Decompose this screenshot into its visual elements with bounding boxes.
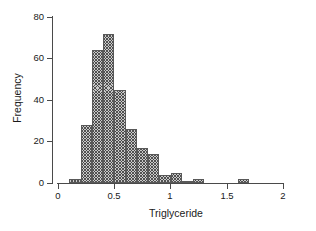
y-tick-label-80: 80 (18, 12, 44, 22)
histogram-bar (114, 90, 125, 183)
x-tick-label-1.5: 1.5 (212, 191, 242, 201)
histogram-bar (148, 154, 159, 183)
x-tick-label-1: 1 (155, 191, 185, 201)
y-tick-40 (47, 100, 52, 101)
histogram-bar (159, 175, 170, 183)
histogram-bar (171, 173, 182, 183)
x-tick-0.5 (114, 184, 115, 189)
histogram-bar (126, 129, 137, 183)
x-tick-label-0.5: 0.5 (99, 191, 129, 201)
histogram-bar (92, 50, 103, 183)
histogram-bar (137, 148, 148, 183)
histogram-chart: 80 60 40 20 0 0 0.5 1 1.5 2 Triglyceride… (0, 0, 316, 231)
y-axis-line (52, 16, 53, 184)
histogram-bar (182, 181, 193, 183)
y-tick-80 (47, 17, 52, 18)
histogram-bar (238, 179, 249, 183)
y-tick-0 (47, 183, 52, 184)
x-axis-title: Triglyceride (116, 207, 236, 219)
x-tick-label-0: 0 (43, 191, 73, 201)
y-tick-20 (47, 141, 52, 142)
histogram-bar (81, 125, 92, 183)
x-tick-label-2: 2 (268, 191, 298, 201)
histogram-bar (69, 179, 80, 183)
x-tick-2 (283, 184, 284, 189)
y-axis-title: Frequency (11, 53, 23, 143)
x-tick-1 (170, 184, 171, 189)
y-tick-60 (47, 58, 52, 59)
histogram-bar (103, 34, 114, 183)
plot-area: 80 60 40 20 0 0 0.5 1 1.5 2 (0, 0, 316, 231)
y-tick-label-0: 0 (18, 178, 44, 188)
x-tick-1.5 (227, 184, 228, 189)
x-tick-0 (58, 184, 59, 189)
histogram-bar (193, 179, 204, 183)
